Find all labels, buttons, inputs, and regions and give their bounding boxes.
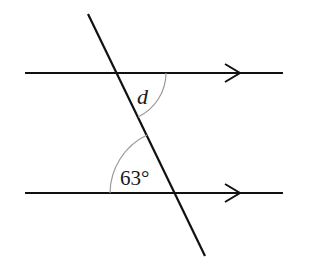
angle-label-63: 63°	[120, 166, 149, 190]
parallel-lines-diagram: d 63°	[0, 0, 321, 265]
angle-label-d: d	[137, 84, 149, 109]
